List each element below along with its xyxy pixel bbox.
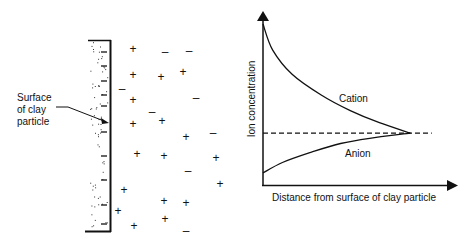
stipple-dot	[101, 129, 102, 130]
anion-curve	[263, 133, 410, 173]
stipple-dot	[92, 46, 93, 47]
cation-symbol: +	[216, 177, 223, 191]
stipple-dot	[95, 133, 96, 134]
stipple-dot	[91, 119, 92, 120]
stipple-dot	[95, 220, 96, 221]
stipple-dot	[101, 117, 102, 118]
stipple-dot	[102, 71, 103, 72]
stipple-dot	[92, 190, 93, 191]
cation-curve	[263, 24, 410, 133]
stipple-dot	[106, 222, 107, 223]
stipple-dot	[99, 146, 100, 147]
anion-symbol: –	[185, 164, 192, 178]
surface-label-line-2: of clay	[17, 104, 46, 115]
stipple-dot	[102, 162, 103, 163]
stipple-dot	[99, 86, 100, 87]
anion-symbol: –	[149, 105, 156, 119]
surface-label-line-3: particle	[17, 116, 50, 127]
stipple-dot	[93, 186, 94, 187]
cation-symbol: +	[129, 42, 136, 56]
stipple-dot	[92, 87, 93, 88]
stipple-dot	[98, 144, 99, 145]
anion-symbol: –	[183, 224, 190, 238]
stipple-dot	[94, 97, 95, 98]
stipple-dot	[104, 163, 105, 164]
stipple-dot	[95, 86, 96, 87]
stipple-dot	[92, 226, 93, 227]
stipple-dot	[106, 91, 107, 92]
stipple-dot	[104, 161, 105, 162]
cation-symbol: +	[120, 183, 127, 197]
stipple-dot	[94, 197, 95, 198]
stipple-dot	[95, 187, 96, 188]
stipple-dot	[93, 225, 94, 226]
stipple-dot	[107, 202, 108, 203]
surface-label-line-1: Surface	[17, 92, 52, 103]
stipple-dot	[98, 124, 99, 125]
anion-symbol: –	[193, 91, 200, 105]
anion-symbol: –	[119, 82, 126, 96]
cation-symbol: +	[160, 149, 167, 163]
stipple-dot	[94, 115, 95, 116]
stipple-dot	[98, 134, 99, 135]
cation-symbol: +	[114, 204, 121, 218]
stipple-dot	[101, 58, 102, 59]
ion-cloud: +––+++–+––+++–+++–+++++++–	[114, 42, 223, 238]
ion-concentration-graph: Cation Anion Ion concentration Distance …	[246, 11, 458, 203]
stipple-dot	[91, 108, 92, 109]
anion-label: Anion	[345, 148, 371, 159]
stipple-dot	[107, 102, 108, 103]
stipple-dot	[98, 198, 99, 199]
stipple-dot	[103, 172, 104, 173]
stipple-dot	[100, 133, 101, 134]
stipple-dot	[93, 42, 94, 43]
clay-double-layer-diagram: Surface of clay particle +––+++–+––+++–+…	[0, 0, 473, 244]
stipple-dot	[96, 109, 97, 110]
stipple-dot	[100, 104, 101, 105]
cation-symbol: +	[182, 196, 189, 210]
stipple-dot	[96, 107, 97, 108]
stipple-dot	[90, 183, 91, 184]
cation-symbol: +	[130, 219, 137, 233]
x-axis-label: Distance from surface of clay particle	[272, 192, 436, 203]
cation-symbol: +	[158, 114, 165, 128]
anion-symbol: –	[210, 126, 217, 140]
stipple-dot	[92, 125, 93, 126]
stipple-dot	[100, 197, 101, 198]
stipple-dot	[107, 222, 108, 223]
cation-symbol: +	[179, 65, 186, 79]
stipple-dot	[102, 56, 103, 57]
cation-symbol: +	[133, 147, 140, 161]
anion-symbol: –	[162, 45, 169, 59]
cation-symbol: +	[212, 151, 219, 165]
stipple-dot	[91, 206, 92, 207]
cation-symbol: +	[157, 70, 164, 84]
clay-particle-body	[88, 40, 111, 232]
cation-symbol: +	[129, 68, 136, 82]
clay-particle	[85, 40, 111, 232]
x-axis-arrowhead	[447, 180, 458, 191]
stipple-dot	[93, 51, 94, 52]
stipple-dot	[97, 62, 98, 63]
stipple-dot	[91, 214, 92, 215]
stipple-dot	[98, 136, 99, 137]
stipple-dot	[99, 52, 100, 53]
stipple-dot	[101, 124, 102, 125]
cation-label: Cation	[339, 93, 368, 104]
stipple-dot	[104, 67, 105, 68]
y-axis-arrowhead	[257, 11, 269, 21]
stipple-dot	[98, 59, 99, 60]
cation-symbol: +	[161, 212, 168, 226]
stipple-dot	[95, 185, 96, 186]
stipple-dot	[90, 109, 91, 110]
y-axis-label: Ion concentration	[246, 61, 257, 138]
stipple-dot	[90, 71, 91, 72]
stipple-dot	[98, 204, 99, 205]
cation-symbol: +	[129, 117, 136, 131]
cation-symbol: +	[160, 194, 167, 208]
stipple-dot	[100, 47, 101, 48]
stipple-dot	[92, 84, 93, 85]
cation-symbol: +	[182, 130, 189, 144]
cation-symbol: +	[129, 93, 136, 107]
anion-symbol: –	[186, 44, 193, 58]
